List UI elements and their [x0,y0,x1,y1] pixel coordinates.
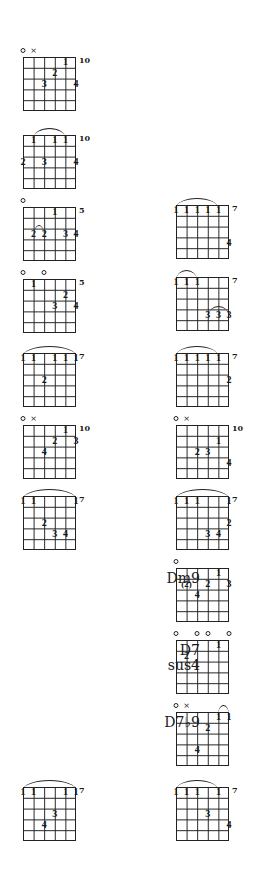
finger-number: 3 [227,310,232,320]
fret-number: 7 [232,275,238,285]
finger-number: 3 [63,229,68,239]
finger-number: 1 [74,496,79,506]
fret-number: 10 [79,133,90,143]
finger-number: 1 [216,640,221,650]
chord-diagram: 10111234 [23,135,103,213]
finger-number: 1 [174,205,179,215]
open-string-icon [21,48,26,53]
fret-number: 5 [79,277,85,287]
finger-number: 4 [195,590,200,600]
finger-number: 1 [184,496,189,506]
finger-number: 1 [52,135,57,145]
finger-number: 2 [42,229,47,239]
finger-number: 1 [205,205,210,215]
finger-number: 1 [21,787,26,797]
finger-number: 1 [216,787,221,797]
finger-number: 1 [63,425,68,435]
open-string-icon [195,631,200,636]
finger-number: 4 [74,301,79,311]
muted-string-icon: × [30,414,37,423]
finger-number: 3 [74,436,79,446]
fret-number: 7 [79,785,85,795]
chord-diagram: 7111234 [23,496,103,574]
finger-number: 4 [216,529,221,539]
finger-number: 2 [31,229,36,239]
finger-number: 1 [195,353,200,363]
finger-number: 1 [31,787,36,797]
finger-number: 1 [21,496,26,506]
finger-number: 3 [52,301,57,311]
muted-string-icon: × [183,701,190,710]
finger-number: 1 [184,353,189,363]
chord-diagram: 51234 [23,279,103,357]
finger-number: 4 [74,157,79,167]
chord-diagram: 7111333 [176,277,254,355]
finger-number: 1 [174,787,179,797]
finger-number: 3 [52,529,57,539]
chord-name: Dm9 [140,571,200,586]
chord-diagram: 71111234 [176,496,254,574]
fretboard-grid [176,425,229,479]
finger-number: 1 [21,353,26,363]
finger-number: 1 [63,135,68,145]
finger-number: 2 [63,290,68,300]
finger-number: 2 [205,579,210,589]
finger-number: 2 [52,68,57,78]
finger-number: 1 [31,353,36,363]
fret-number: 7 [79,494,85,504]
fret-number: 10 [79,423,90,433]
finger-number: 1 [31,279,36,289]
finger-number: 1 [174,277,179,287]
finger-number: 1 [31,496,36,506]
finger-number: 1 [52,207,57,217]
finger-number: 1 [195,496,200,506]
finger-number: 3 [52,809,57,819]
fretboard-grid [23,425,76,479]
finger-number: 4 [227,820,232,830]
fret-number: 7 [232,351,238,361]
finger-number: 1 [205,353,210,363]
finger-number: 1 [63,787,68,797]
finger-number: 3 [227,579,232,589]
finger-number: 1 [63,353,68,363]
finger-number: 1 [184,787,189,797]
fret-number: 10 [79,55,90,65]
chord-name: D7♭9 [140,715,200,730]
finger-number: 4 [74,79,79,89]
fret-number: 7 [79,351,85,361]
finger-number: 4 [74,229,79,239]
finger-number: 2 [205,723,210,733]
finger-number: 3 [205,529,210,539]
finger-number: 2 [195,447,200,457]
fret-number: 7 [232,785,238,795]
finger-number: 2 [52,436,57,446]
finger-number: 4 [63,529,68,539]
finger-number: 4 [42,820,47,830]
finger-number: 1 [216,353,221,363]
fret-number: 5 [79,205,85,215]
finger-number: 2 [42,375,47,385]
finger-number: 3 [42,79,47,89]
open-string-icon [174,559,179,564]
open-string-icon [174,416,179,421]
open-string-icon [227,631,232,636]
chord-name: D7sus4 [140,643,200,674]
finger-number: 4 [42,447,47,457]
open-string-icon [174,703,179,708]
open-string-icon [174,631,179,636]
finger-number: 1 [216,712,221,722]
finger-number: 1 [195,277,200,287]
chord-diagram: ×1124D7♭9 [176,712,254,790]
finger-number: 2 [227,375,232,385]
fret-number: 7 [232,203,238,213]
fret-number: 7 [232,494,238,504]
finger-number: 2 [227,518,232,528]
finger-number: 1 [216,205,221,215]
finger-number: 2 [21,157,26,167]
finger-number: 1 [174,353,179,363]
finger-number: 1 [63,57,68,67]
finger-number: 3 [42,157,47,167]
chord-diagram: 1(2)234Dm9 [176,568,254,646]
open-string-icon [21,416,26,421]
finger-number: 3 [205,447,210,457]
